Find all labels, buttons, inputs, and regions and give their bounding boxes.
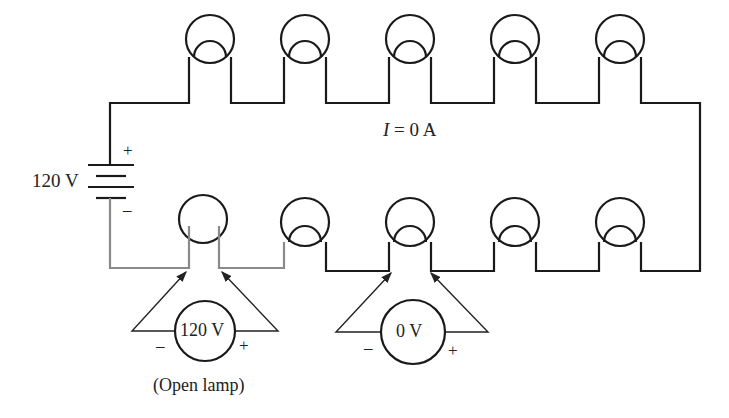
current-value: = 0 A xyxy=(389,119,436,140)
voltmeter-1-minus: – xyxy=(156,336,165,356)
voltmeter-1-plus: + xyxy=(239,336,249,356)
open-path-wire xyxy=(110,198,284,268)
source-voltage-label: 120 V xyxy=(32,170,79,192)
voltmeter-1-reading: 120 V xyxy=(180,320,224,341)
bottom-lamps xyxy=(179,195,644,246)
voltmeter-2-reading: 0 V xyxy=(396,321,422,342)
top-wire xyxy=(110,57,700,271)
open-lamp-caption: (Open lamp) xyxy=(153,375,244,396)
top-lamps xyxy=(186,15,644,63)
source-plus-sign: + xyxy=(123,141,133,161)
voltmeter-2-plus: + xyxy=(448,341,458,361)
source-minus-sign: – xyxy=(123,200,132,220)
current-label: I = 0 A xyxy=(383,119,436,141)
voltmeter-2-minus: – xyxy=(364,338,373,358)
circuit-diagram: 120 V + – I = 0 A 120 V – + (Open lamp) … xyxy=(0,0,729,418)
